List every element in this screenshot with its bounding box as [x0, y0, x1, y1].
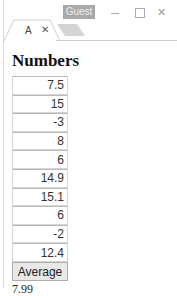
- minimize-button[interactable]: [111, 7, 119, 14]
- tab-shape: [4, 19, 60, 41]
- close-icon: ✕: [157, 6, 166, 19]
- number-input-7[interactable]: [12, 188, 68, 207]
- maximize-icon: [135, 8, 145, 18]
- number-input-9[interactable]: [12, 225, 68, 244]
- number-input-1[interactable]: [12, 76, 68, 95]
- close-window-button[interactable]: ✕: [157, 7, 166, 19]
- tab-title: A: [25, 25, 32, 36]
- number-input-4[interactable]: [12, 132, 68, 151]
- minimize-icon: [111, 13, 119, 14]
- number-input-8[interactable]: [12, 206, 68, 225]
- profile-badge[interactable]: Guest: [63, 5, 95, 19]
- window-border: [3, 0, 4, 288]
- tab-close-icon[interactable]: ✕: [41, 24, 49, 35]
- tab-active[interactable]: A ✕: [4, 19, 56, 41]
- number-inputs: [12, 76, 68, 262]
- number-input-3[interactable]: [12, 113, 68, 132]
- new-tab-icon[interactable]: [57, 24, 85, 36]
- number-input-2[interactable]: [12, 95, 68, 114]
- number-input-10[interactable]: [12, 243, 68, 262]
- tabstrip-divider: [56, 40, 177, 41]
- page-title: Numbers: [12, 51, 79, 71]
- number-input-5[interactable]: [12, 150, 68, 169]
- average-button[interactable]: Average: [12, 262, 68, 281]
- average-result: 7.99: [12, 282, 33, 296]
- maximize-button[interactable]: [135, 7, 145, 18]
- number-input-6[interactable]: [12, 169, 68, 188]
